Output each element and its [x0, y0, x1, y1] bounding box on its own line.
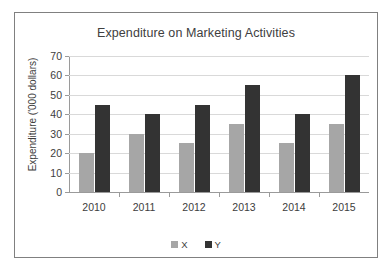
- bar-x-2014: [279, 143, 294, 192]
- plot-area: 010203040506070201020112012201320142015: [69, 56, 369, 193]
- x-tick-mark: [169, 193, 170, 197]
- bar-x-2010: [79, 153, 94, 192]
- x-category-label: 2014: [282, 201, 305, 213]
- y-tick-mark: [65, 153, 69, 154]
- bar-x-2012: [179, 143, 194, 192]
- y-tick-label: 20: [50, 147, 62, 159]
- y-tick-label: 10: [50, 167, 62, 179]
- bar-y-2012: [195, 105, 210, 192]
- y-tick-label: 70: [50, 50, 62, 62]
- legend-label: Y: [215, 239, 221, 250]
- y-axis-title: Expenditure ('000 dollars): [27, 45, 38, 185]
- x-category-label: 2012: [182, 201, 205, 213]
- legend-entry-x[interactable]: X: [171, 239, 187, 250]
- bar-y-2011: [145, 114, 160, 192]
- x-category-label: 2011: [133, 201, 156, 213]
- gridline: [69, 95, 369, 96]
- gridline: [69, 75, 369, 76]
- gridline: [69, 56, 369, 57]
- y-tick-mark: [65, 173, 69, 174]
- y-tick-label: 30: [50, 128, 62, 140]
- y-tick-mark: [65, 134, 69, 135]
- gridline: [69, 134, 369, 135]
- y-tick-mark: [65, 56, 69, 57]
- bar-x-2011: [129, 134, 144, 192]
- y-tick-label: 0: [56, 186, 62, 198]
- gridline: [69, 153, 369, 154]
- y-tick-mark: [65, 95, 69, 96]
- y-tick-mark: [65, 192, 69, 193]
- legend-swatch-icon: [205, 241, 212, 248]
- gridline: [69, 114, 369, 115]
- x-tick-mark: [219, 193, 220, 197]
- gridline: [69, 173, 369, 174]
- chart-legend: XY: [15, 239, 377, 250]
- bar-x-2013: [229, 124, 244, 192]
- y-tick-label: 50: [50, 89, 62, 101]
- chart-container: Expenditure on Marketing Activities Expe…: [14, 12, 378, 258]
- x-tick-mark: [119, 193, 120, 197]
- bar-y-2013: [245, 85, 260, 192]
- bar-y-2010: [95, 105, 110, 192]
- y-tick-label: 40: [50, 108, 62, 120]
- bar-x-2015: [329, 124, 344, 192]
- y-tick-label: 60: [50, 69, 62, 81]
- legend-entry-y[interactable]: Y: [205, 239, 221, 250]
- y-tick-mark: [65, 114, 69, 115]
- bar-y-2015: [345, 75, 360, 192]
- x-tick-mark: [319, 193, 320, 197]
- chart-title: Expenditure on Marketing Activities: [15, 26, 377, 40]
- y-tick-mark: [65, 75, 69, 76]
- x-category-label: 2013: [232, 201, 255, 213]
- x-tick-mark: [269, 193, 270, 197]
- x-category-label: 2015: [332, 201, 355, 213]
- legend-swatch-icon: [171, 241, 178, 248]
- x-category-label: 2010: [82, 201, 105, 213]
- legend-label: X: [181, 239, 187, 250]
- bar-y-2014: [295, 114, 310, 192]
